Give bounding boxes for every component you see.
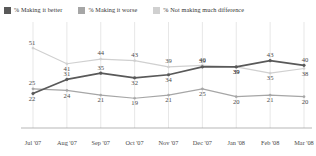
data-point[interactable] (134, 60, 136, 62)
data-label: 20 (233, 98, 240, 105)
data-label: 43 (267, 51, 274, 58)
data-label: 32 (131, 79, 138, 86)
legend-label-not-making-much-difference: % Not making much difference (163, 6, 244, 14)
data-label: 39 (165, 57, 172, 64)
x-axis-tick-3: Oct '07 (126, 138, 144, 148)
chart-legend: % Making it better % Making it worse % N… (4, 6, 244, 14)
data-point[interactable] (269, 59, 272, 62)
x-axis-tick-2: Sep '07 (92, 138, 110, 148)
data-label: 35 (267, 74, 274, 81)
legend-item-making-it-better[interactable]: % Making it better (4, 6, 62, 14)
data-point[interactable] (100, 58, 102, 60)
data-point[interactable] (32, 47, 34, 49)
data-point[interactable] (66, 78, 69, 81)
legend-label-making-it-worse: % Making it worse (88, 6, 137, 14)
data-label: 20 (302, 98, 309, 105)
data-label: 34 (165, 76, 172, 83)
legend-swatch-making-it-worse (78, 7, 85, 14)
legend-item-not-making-much-difference[interactable]: % Not making much difference (153, 6, 244, 14)
data-label: 22 (29, 95, 36, 102)
x-axis-tick-1: Aug '07 (57, 138, 77, 148)
data-label: 21 (97, 96, 104, 103)
data-label: 40 (302, 56, 309, 63)
data-label: 25 (199, 90, 206, 97)
x-axis-labels: Jul '07Aug '07Sep '07Oct '07Nov '07Dec '… (0, 138, 316, 150)
chart-plot-area: 2231353234393943402524211921252021205141… (0, 20, 316, 136)
cropped-title-sliver (0, 0, 316, 5)
x-axis-tick-0: Jul '07 (25, 138, 41, 148)
data-point[interactable] (201, 66, 204, 69)
data-point[interactable] (32, 88, 34, 90)
legend-label-making-it-better: % Making it better (14, 6, 62, 14)
line-chart-svg: 2231353234393943402524211921252021205141… (0, 20, 316, 136)
chart-page: % Making it better % Making it worse % N… (0, 0, 316, 156)
data-label: 21 (267, 96, 274, 103)
data-point[interactable] (303, 64, 306, 67)
data-label: 44 (97, 49, 104, 56)
legend-item-making-it-worse[interactable]: % Making it worse (78, 6, 137, 14)
data-label: 21 (165, 96, 172, 103)
x-axis-tick-7: Feb '08 (261, 138, 279, 148)
data-label: 39 (233, 68, 240, 75)
x-axis-tick-4: Nov '07 (159, 138, 179, 148)
data-label: 25 (29, 79, 36, 86)
data-label: 43 (131, 51, 138, 58)
legend-swatch-making-it-better (4, 7, 11, 14)
data-label: 24 (64, 92, 71, 99)
legend-swatch-not-making-much-difference (153, 7, 160, 14)
data-label: 35 (97, 64, 104, 71)
data-label: 38 (302, 70, 309, 77)
x-axis-tick-8: Mar '08 (294, 138, 314, 148)
data-label: 19 (131, 99, 138, 106)
data-label: 41 (64, 65, 71, 72)
x-axis-tick-6: Jan '08 (228, 138, 245, 148)
data-point[interactable] (167, 66, 169, 68)
x-axis-tick-5: Dec '07 (193, 138, 212, 148)
data-label: 51 (29, 39, 36, 46)
data-label: 40 (199, 56, 206, 63)
data-point[interactable] (99, 72, 102, 75)
